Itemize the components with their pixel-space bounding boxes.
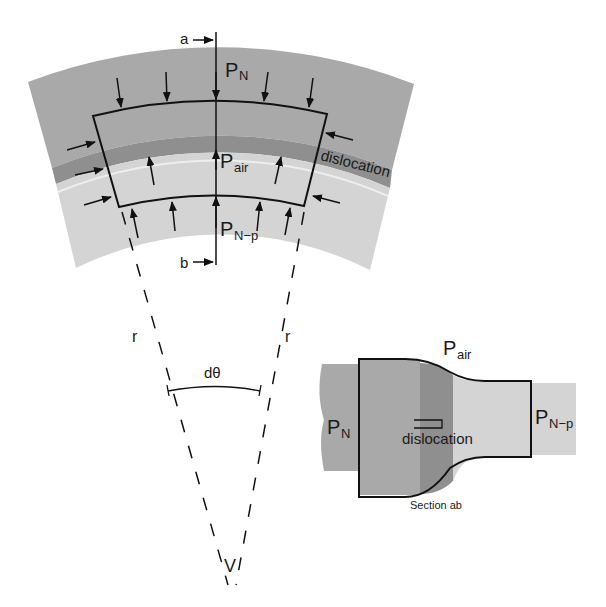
label-sub: N−p [549, 416, 573, 431]
label-main: P [327, 416, 340, 438]
label-main: P [535, 406, 548, 428]
section-dislocation-label: dislocation [402, 430, 473, 447]
label-sub: air [234, 160, 249, 175]
label-sub: N [239, 68, 248, 83]
section-view: P air P N P N−p dislocation Section ab [319, 337, 576, 511]
label-sub: N−p [234, 228, 258, 243]
dislocation-diagram: a b P N P air P N−p dislocation r r dθ V [0, 0, 606, 607]
section-a-label: a [180, 30, 189, 47]
arrow-down-icon [166, 72, 167, 101]
angle-label: dθ [204, 364, 221, 381]
label-main: P [220, 218, 233, 240]
label-main: P [225, 59, 238, 81]
vertex-label: V [224, 556, 236, 576]
section-label-p-air: P air [443, 337, 472, 362]
section-caption: Section ab [410, 499, 462, 511]
arc-view: a b P N P air P N−p dislocation r r dθ V [28, 30, 414, 585]
section-body-right [453, 375, 531, 481]
radius-label-right: r [285, 328, 291, 345]
label-main: P [220, 150, 233, 172]
radius-line-left [122, 212, 228, 585]
angle-arc [168, 387, 260, 392]
section-body-left [359, 360, 420, 495]
radius-label-left: r [132, 328, 138, 345]
section-b-label: b [180, 254, 188, 271]
label-main: P [443, 337, 456, 359]
label-sub: air [457, 347, 472, 362]
label-sub: N [341, 426, 350, 441]
radius-line-right [236, 212, 304, 585]
